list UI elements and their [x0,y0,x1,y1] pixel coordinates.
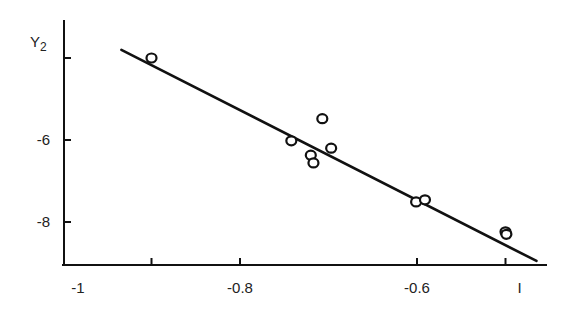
y-tick-label: -8 [37,213,50,230]
regression-line [121,50,536,261]
data-point [420,195,430,204]
scatter-chart: -6-8 Y2 -1-0.8-0.6I [0,0,575,315]
x-tick-label: I [517,279,521,296]
x-tick-label: -0.6 [404,279,430,296]
y-axis-label: Y2 [30,33,47,54]
data-point [308,158,318,167]
data-points [147,54,512,239]
x-tick-label: -1 [71,279,84,296]
data-point [147,54,157,63]
y-tick-label: -6 [37,131,50,148]
data-point [326,144,336,153]
x-axis: -1-0.8-0.6I [62,258,547,296]
x-tick-label: -0.8 [227,279,253,296]
y-axis: -6-8 Y2 [30,20,71,266]
data-point [501,230,511,239]
data-point [317,114,327,123]
data-point [286,136,296,145]
